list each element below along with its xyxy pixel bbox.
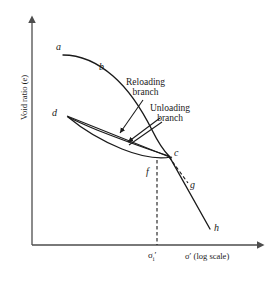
reloading-leader-line [120,100,143,133]
unloading-branch-line2: branch [150,114,190,124]
point-label-h: h [214,223,219,234]
point-label-f: f [146,167,149,178]
unloading-leader-line-b [129,122,162,145]
y-axis-label: Void ratio (e) [20,75,29,120]
x-axis-label-rest: (log scale) [191,251,229,261]
point-label-d: d [52,108,57,119]
x-axis-label: σ′ (log scale) [185,252,229,261]
x-tick-label-sigma-i: σi′ [148,251,157,262]
reloading-branch-line2: branch [126,88,165,98]
point-label-a: a [56,42,61,53]
reloading-branch-annotation: Reloading branch [126,78,165,98]
consolidation-curve-figure: Void ratio (e) σ′ (log scale) σi′ a b c … [0,0,276,281]
unloading-branch-annotation: Unloading branch [150,104,190,124]
point-label-b: b [99,62,104,73]
figure-canvas [0,0,276,281]
point-label-c: c [174,148,178,159]
point-label-g: g [190,180,195,191]
tick-prime-glyph: ′ [155,250,157,260]
